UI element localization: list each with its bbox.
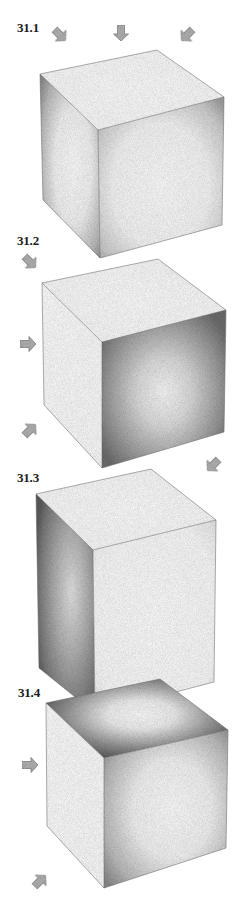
light-direction-arrow-icon bbox=[22, 758, 38, 773]
light-direction-arrow-icon bbox=[114, 25, 129, 41]
light-direction-arrow-icon bbox=[19, 251, 41, 273]
figure-label: 31.3 bbox=[17, 470, 39, 486]
cube-figure-31-2 bbox=[19, 251, 226, 476]
light-direction-arrow-icon bbox=[202, 454, 224, 476]
cube-figure-31-4 bbox=[22, 679, 228, 892]
figure-label: 31.1 bbox=[17, 20, 39, 36]
figure-label: 31.4 bbox=[18, 685, 40, 701]
light-direction-arrow-icon bbox=[29, 870, 51, 892]
cube-figure-31-3 bbox=[36, 469, 216, 713]
figure-label: 31.2 bbox=[17, 233, 39, 249]
cube-figure-31-1 bbox=[40, 24, 224, 258]
cube-shading-illustration bbox=[0, 0, 238, 903]
light-direction-arrow-icon bbox=[176, 24, 198, 46]
light-direction-arrow-icon bbox=[20, 337, 36, 352]
light-direction-arrow-icon bbox=[49, 24, 71, 46]
light-direction-arrow-icon bbox=[19, 419, 41, 441]
